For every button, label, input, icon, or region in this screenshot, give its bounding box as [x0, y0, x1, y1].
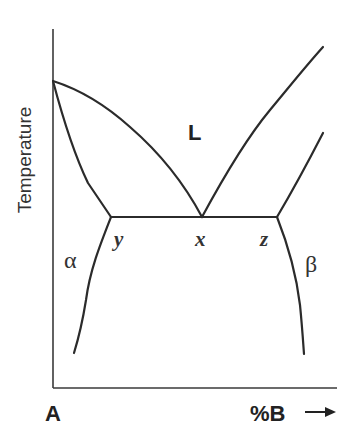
y-axis-label: Temperature — [14, 107, 35, 214]
solidus-left-curve — [53, 81, 111, 217]
alpha-region-label: α — [64, 247, 77, 273]
point-z-label: z — [259, 227, 269, 251]
x-axis-label: %B — [250, 401, 285, 426]
beta-region-label: β — [305, 251, 317, 277]
liquid-region-label: L — [188, 120, 201, 145]
point-y-label: y — [111, 227, 124, 251]
x-axis-arrow-icon — [305, 407, 336, 417]
point-x-label: x — [194, 227, 206, 251]
solvus-beta-curve — [277, 217, 304, 354]
origin-label: A — [45, 401, 61, 426]
phase-diagram: Temperature L α β y x z A %B — [0, 0, 358, 437]
liquidus-right-curve — [202, 47, 323, 217]
solvus-alpha-curve — [74, 217, 111, 353]
liquidus-left-curve — [53, 81, 202, 217]
solidus-right-curve — [277, 133, 323, 217]
